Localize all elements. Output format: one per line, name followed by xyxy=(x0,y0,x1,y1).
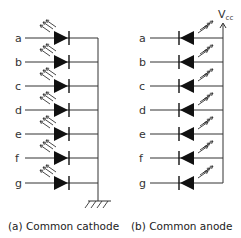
segment-label: e xyxy=(139,128,146,141)
cathode-row-f: f xyxy=(15,140,98,165)
anode-row-c: c xyxy=(139,69,223,93)
led-diode-icon xyxy=(180,55,194,69)
segment-label: a xyxy=(139,32,146,45)
segment-label: g xyxy=(139,177,146,190)
segment-label: e xyxy=(15,128,22,141)
segment-label: c xyxy=(15,80,21,93)
segment-label: b xyxy=(15,56,22,69)
segment-label: d xyxy=(15,104,22,117)
led-diode-icon xyxy=(54,55,68,69)
segment-label: c xyxy=(139,80,145,93)
cathode-row-g: g xyxy=(15,165,98,190)
cathode-row-e: e xyxy=(15,116,98,141)
diagram-canvas: abcdefgabcdefgVcc(a) Common cathode(b) C… xyxy=(0,0,241,238)
cathode-row-c: c xyxy=(15,68,98,93)
led-diode-icon xyxy=(180,79,194,93)
anode-row-b: b xyxy=(139,45,223,69)
led-diode-icon xyxy=(54,151,68,165)
caption-common-anode: (b) Common anode xyxy=(131,220,232,232)
cathode-row-a: a xyxy=(15,20,98,45)
segment-label: f xyxy=(139,152,144,165)
anode-row-d: d xyxy=(139,93,223,117)
led-diode-icon xyxy=(54,103,68,117)
led-diode-icon xyxy=(54,31,68,45)
vcc-label: Vcc xyxy=(218,8,233,22)
segment-label: g xyxy=(15,177,22,190)
led-diode-icon xyxy=(180,31,194,45)
led-diode-icon xyxy=(180,151,194,165)
led-diode-icon xyxy=(54,176,68,190)
led-diode-icon xyxy=(180,103,194,117)
common-cathode-circuit: abcdefg xyxy=(15,20,111,208)
cathode-row-b: b xyxy=(15,44,98,69)
segment-label: f xyxy=(15,152,20,165)
anode-row-a: a xyxy=(139,21,223,45)
led-diode-icon xyxy=(54,127,68,141)
segment-label: b xyxy=(139,56,146,69)
led-diode-icon xyxy=(180,176,194,190)
cathode-row-d: d xyxy=(15,92,98,117)
caption-common-cathode: (a) Common cathode xyxy=(8,220,119,232)
segment-label: a xyxy=(15,32,22,45)
segment-label: d xyxy=(139,104,146,117)
anode-row-g: g xyxy=(139,166,223,190)
led-diode-icon xyxy=(54,79,68,93)
led-diode-icon xyxy=(180,127,194,141)
ground-icon xyxy=(85,201,111,208)
common-anode-circuit: abcdefgVcc xyxy=(139,8,233,190)
anode-row-f: f xyxy=(139,141,223,165)
anode-row-e: e xyxy=(139,117,223,141)
